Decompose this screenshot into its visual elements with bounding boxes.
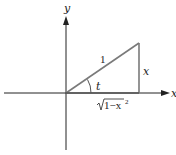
y-axis-label: y [63,2,71,15]
y-axis-arrow-icon [63,16,69,25]
hypotenuse [66,43,139,93]
adjacent-label: 1−x 2 [97,98,129,111]
svg-text:2: 2 [125,98,129,106]
angle-arc [88,80,92,94]
svg-text:1−x: 1−x [104,99,122,111]
triangle-diagram: x y t 1 x 1−x 2 [0,0,176,155]
opposite-label: x [143,65,150,78]
x-axis-label: x [171,87,176,100]
angle-label: t [96,80,101,93]
hypotenuse-label: 1 [100,53,106,65]
x-axis-arrow-icon [161,90,170,96]
